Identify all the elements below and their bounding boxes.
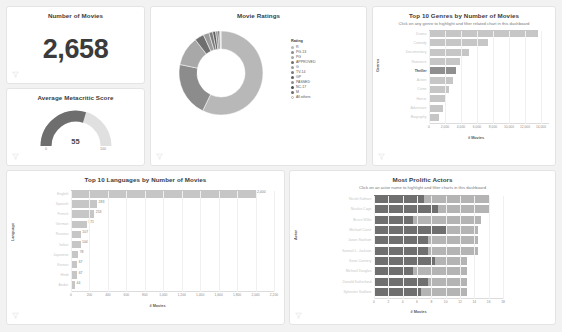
bar-row[interactable]: Sean Connery bbox=[334, 256, 503, 266]
filter-funnel-icon[interactable] bbox=[156, 153, 163, 160]
bar-segment[interactable] bbox=[446, 226, 478, 234]
bar-category-label[interactable]: Donald Sutherland bbox=[334, 280, 374, 284]
bar-category-label[interactable]: Sylvester Stallone bbox=[334, 290, 374, 294]
bar-fill[interactable] bbox=[71, 210, 94, 218]
bar-fill[interactable] bbox=[71, 221, 87, 229]
bar-row[interactable]: English2,000 bbox=[41, 189, 274, 199]
bar-fill[interactable] bbox=[71, 241, 81, 249]
bar-fill[interactable] bbox=[429, 86, 449, 93]
bar-segment[interactable] bbox=[428, 247, 478, 255]
bar-category-label[interactable]: Thriller bbox=[403, 69, 429, 73]
bar-row[interactable]: Crime bbox=[403, 85, 549, 94]
filter-funnel-icon[interactable] bbox=[12, 312, 19, 319]
bar-category-label[interactable]: Comedy bbox=[403, 41, 429, 45]
bar-category-label[interactable]: Horror bbox=[403, 97, 429, 101]
bar-fill[interactable] bbox=[429, 49, 469, 56]
bar-fill[interactable] bbox=[71, 231, 81, 239]
bar-row[interactable]: Donald Sutherland bbox=[334, 276, 503, 286]
bar-category-label[interactable]: Adventure bbox=[403, 106, 429, 110]
bar-row[interactable]: Jason Statham bbox=[334, 235, 503, 245]
bar-category-label[interactable]: Drama bbox=[403, 32, 429, 36]
bar-category-label[interactable]: Jason Statham bbox=[334, 238, 374, 242]
bar-row[interactable]: Thriller bbox=[403, 66, 549, 75]
bar-row[interactable]: Drama bbox=[403, 29, 549, 38]
donut-slice[interactable] bbox=[179, 64, 211, 110]
bar-category-label[interactable]: Samuel L. Jackson bbox=[334, 249, 374, 253]
bar-row[interactable]: Nicole Kidman bbox=[334, 194, 503, 204]
bar-category-label[interactable]: Sean Connery bbox=[334, 259, 374, 263]
bar-category-label[interactable]: Michael Caine bbox=[334, 228, 374, 232]
bar-category-label[interactable]: Nicole Kidman bbox=[334, 197, 374, 201]
bar-category-label[interactable]: Japanese bbox=[41, 253, 71, 257]
bar-segment[interactable] bbox=[428, 236, 478, 244]
bar-segment[interactable] bbox=[374, 236, 428, 244]
bar-row[interactable]: Nicolas Cage bbox=[334, 204, 503, 214]
bar-category-label[interactable]: Documentary bbox=[403, 50, 429, 54]
bar-fill[interactable] bbox=[71, 251, 78, 259]
filter-funnel-icon[interactable] bbox=[12, 153, 19, 160]
bar-fill[interactable] bbox=[71, 261, 77, 269]
bar-row[interactable]: Arabic44 bbox=[41, 280, 274, 290]
bar-row[interactable]: Adventure bbox=[403, 103, 549, 112]
bar-category-label[interactable]: Italian bbox=[41, 243, 71, 247]
bar-segment[interactable] bbox=[435, 257, 467, 265]
bar-category-label[interactable]: English bbox=[41, 192, 71, 196]
bar-row[interactable]: Japanese78 bbox=[41, 250, 274, 260]
bar-category-label[interactable]: Russian bbox=[41, 232, 71, 236]
bar-row[interactable]: Italian104 bbox=[41, 239, 274, 249]
filter-funnel-icon[interactable] bbox=[12, 71, 19, 78]
bar-segment[interactable] bbox=[374, 267, 413, 275]
bar-category-label[interactable]: Nicolas Cage bbox=[334, 207, 374, 211]
bar-row[interactable]: German171 bbox=[41, 219, 274, 229]
filter-funnel-icon[interactable] bbox=[295, 312, 302, 319]
bar-category-label[interactable]: Korean bbox=[41, 263, 71, 267]
bar-row[interactable]: Korean67 bbox=[41, 260, 274, 270]
bar-segment[interactable] bbox=[374, 247, 428, 255]
bar-segment[interactable] bbox=[374, 288, 421, 296]
bar-category-label[interactable]: Arabic bbox=[41, 283, 71, 287]
donut-svg[interactable] bbox=[175, 27, 267, 123]
bar-row[interactable]: Russian107 bbox=[41, 229, 274, 239]
bar-fill[interactable] bbox=[71, 200, 97, 208]
bar-row[interactable]: Action bbox=[403, 75, 549, 84]
bar-segment[interactable] bbox=[374, 278, 428, 286]
bar-fill[interactable] bbox=[429, 67, 456, 74]
bar-category-label[interactable]: Action bbox=[403, 78, 429, 82]
bar-category-label[interactable]: French bbox=[41, 212, 71, 216]
bar-row[interactable]: Romance bbox=[403, 57, 549, 66]
bar-row[interactable]: Horror bbox=[403, 94, 549, 103]
bar-fill[interactable] bbox=[429, 114, 439, 121]
bar-category-label[interactable]: Spanish bbox=[41, 202, 71, 206]
bar-row[interactable]: Comedy bbox=[403, 38, 549, 47]
bar-fill[interactable] bbox=[71, 271, 77, 279]
bar-fill[interactable] bbox=[429, 39, 488, 46]
legend-item[interactable]: All others bbox=[291, 95, 315, 100]
bar-row[interactable]: Spanish283 bbox=[41, 199, 274, 209]
bar-segment[interactable] bbox=[374, 257, 435, 265]
bar-row[interactable]: Bruce Willis bbox=[334, 215, 503, 225]
bar-category-label[interactable]: Biography bbox=[403, 115, 429, 119]
bar-category-label[interactable]: Crime bbox=[403, 87, 429, 91]
bar-category-label[interactable]: German bbox=[41, 222, 71, 226]
bar-segment[interactable] bbox=[428, 278, 467, 286]
bar-row[interactable]: Sylvester Stallone bbox=[334, 287, 503, 297]
bar-fill[interactable] bbox=[429, 95, 446, 102]
bar-category-label[interactable]: Bruce Willis bbox=[334, 218, 374, 222]
bar-segment[interactable] bbox=[374, 226, 446, 234]
bar-category-label[interactable]: Romance bbox=[403, 60, 429, 64]
bar-segment[interactable] bbox=[374, 216, 413, 224]
bar-segment[interactable] bbox=[374, 205, 438, 213]
bar-row[interactable]: Michael Caine bbox=[334, 225, 503, 235]
bar-fill[interactable] bbox=[429, 77, 453, 84]
bar-row[interactable]: Documentary bbox=[403, 48, 549, 57]
bar-row[interactable]: Michael Douglas bbox=[334, 266, 503, 276]
bar-row[interactable]: French253 bbox=[41, 209, 274, 219]
bar-fill[interactable] bbox=[71, 281, 75, 289]
bar-row[interactable]: Samuel L. Jackson bbox=[334, 245, 503, 255]
bar-category-label[interactable]: Hindi bbox=[41, 273, 71, 277]
bar-segment[interactable] bbox=[424, 195, 488, 203]
bar-fill[interactable] bbox=[429, 105, 443, 112]
bar-row[interactable]: Biography bbox=[403, 113, 549, 122]
bar-segment[interactable] bbox=[413, 216, 481, 224]
bar-category-label[interactable]: Michael Douglas bbox=[334, 269, 374, 273]
